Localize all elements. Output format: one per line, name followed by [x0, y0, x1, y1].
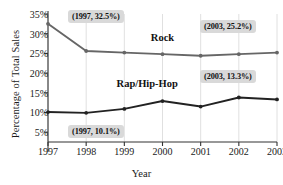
data-point: [84, 49, 88, 53]
data-point: [199, 105, 203, 109]
data-point: [122, 107, 126, 111]
x-axis-tick-label: 2000: [153, 146, 173, 157]
data-annotation-label: (2003, 13.3%): [200, 70, 256, 83]
y-axis-title: Percentage of Total Sales: [10, 9, 24, 159]
data-point: [237, 52, 241, 56]
data-annotation-label: (2003, 25.2%): [200, 20, 256, 33]
data-point: [237, 96, 241, 100]
data-point: [122, 51, 126, 55]
data-point: [161, 99, 165, 103]
x-axis-tick-label: 2001: [191, 146, 211, 157]
data-point: [199, 54, 203, 58]
x-axis-tick-label: 2002: [229, 146, 249, 157]
x-axis-title: Year: [0, 168, 283, 179]
data-annotation-label: (1997, 10.1%): [68, 125, 124, 138]
data-point: [275, 51, 279, 55]
series-label-rap-hip-hop: Rap/Hip-Hop: [117, 78, 178, 89]
x-axis-tick-label: 2003: [267, 146, 283, 157]
x-axis-tick-label: 1998: [76, 146, 96, 157]
data-point: [275, 98, 279, 102]
x-axis-tick-label: 1999: [114, 146, 134, 157]
x-axis-tick-label: 1997: [38, 146, 58, 157]
data-annotation-label: (1997, 32.5%): [68, 10, 124, 23]
series-label-rock: Rock: [151, 32, 174, 43]
chart-container: 35%30%25%20%15%10%5% 1997199819992000200…: [0, 0, 283, 185]
data-point: [84, 111, 88, 115]
data-point: [161, 52, 165, 56]
